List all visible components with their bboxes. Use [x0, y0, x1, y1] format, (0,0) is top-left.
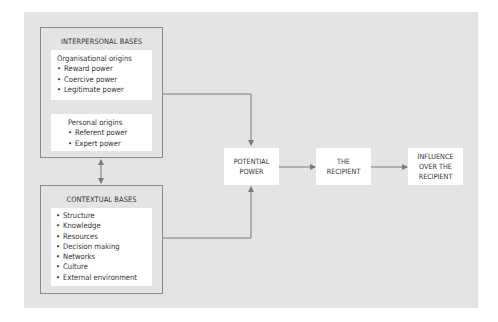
connector-contextual-to-potential [162, 187, 251, 238]
list-item: Knowledge [56, 221, 152, 231]
interpersonal-bases-box: INTERPERSONAL BASES Organisational origi… [40, 27, 163, 158]
potential-power-line-2: POWER [234, 167, 270, 177]
organisational-origins-list: Reward power Coercive power Legitimate p… [57, 64, 152, 95]
potential-power-line-1: POTENTIAL [234, 157, 270, 167]
influence-line-1: INFLUENCE [418, 152, 454, 162]
influence-over-recipient-box: INFLUENCE OVER THE RECIPIENT [408, 148, 463, 185]
list-item: Culture [56, 262, 152, 272]
potential-power-box: POTENTIAL POWER [224, 148, 279, 185]
influence-line-3: RECIPIENT [418, 172, 454, 182]
contextual-bases-box: CONTEXTUAL BASES Structure Knowledge Res… [40, 185, 163, 294]
organisational-origins-heading: Organisational origins [57, 54, 152, 64]
connector-interpersonal-to-potential [162, 94, 251, 145]
personal-origins-heading: Personal origins [68, 118, 152, 128]
list-item: External environment [56, 273, 152, 283]
interpersonal-bases-title: INTERPERSONAL BASES [41, 37, 162, 46]
organisational-origins-box: Organisational origins Reward power Coer… [51, 50, 152, 100]
list-item: Decision making [56, 242, 152, 252]
personal-origins-box: Personal origins Referent power Expert p… [51, 114, 152, 151]
recipient-line-1: THE [327, 157, 361, 167]
list-item: Structure [56, 211, 152, 221]
list-item: Networks [56, 252, 152, 262]
contextual-bases-list: Structure Knowledge Resources Decision m… [56, 211, 152, 283]
list-item: Reward power [57, 64, 152, 74]
list-item: Legitimate power [57, 85, 152, 95]
contextual-bases-title: CONTEXTUAL BASES [41, 195, 162, 204]
contextual-bases-list-box: Structure Knowledge Resources Decision m… [51, 208, 152, 286]
recipient-line-2: RECIPIENT [327, 167, 361, 177]
list-item: Expert power [68, 139, 152, 149]
list-item: Resources [56, 232, 152, 242]
personal-origins-list: Referent power Expert power [68, 128, 152, 149]
the-recipient-box: THE RECIPIENT [316, 148, 371, 185]
list-item: Coercive power [57, 75, 152, 85]
list-item: Referent power [68, 128, 152, 138]
influence-line-2: OVER THE [418, 162, 454, 172]
